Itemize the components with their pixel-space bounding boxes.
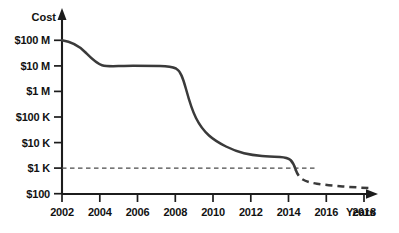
x-tick-label: 2008 [163, 206, 187, 218]
cost-decline-chart: $100 M $10 M $1 M $100 K $10 K $1 K $100… [0, 0, 399, 233]
historical-cost-curve [62, 40, 296, 169]
y-tick-label: $1 K [28, 162, 51, 174]
x-tick-label: 2004 [88, 206, 113, 218]
y-axis-title: Cost [32, 11, 57, 23]
x-tick-label: 2002 [50, 206, 74, 218]
y-axis-arrow-icon [58, 8, 67, 20]
projected-cost-curve [296, 170, 372, 189]
y-tick-label: $100 [26, 188, 50, 200]
x-axis-title: Years [346, 206, 375, 218]
y-tick-label: $10 M [20, 60, 50, 72]
chart-canvas: $100 M $10 M $1 M $100 K $10 K $1 K $100… [0, 0, 399, 233]
y-tick-label: $100 K [16, 111, 51, 123]
y-tick-label: $10 K [22, 137, 51, 149]
y-tick-label: $100 M [15, 34, 51, 46]
x-tick-label: 2014 [277, 206, 302, 218]
x-tick-label: 2010 [201, 206, 225, 218]
x-axis-arrow-icon [366, 189, 378, 199]
x-tick-label: 2006 [126, 206, 150, 218]
x-tick-label: 2016 [314, 206, 338, 218]
y-tick-label: $1 M [26, 85, 50, 97]
x-tick-label: 2012 [239, 206, 263, 218]
